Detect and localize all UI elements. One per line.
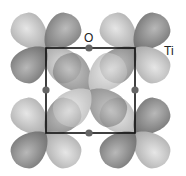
diagram-canvas [0, 0, 186, 176]
orbital-diagram: O Ti [0, 0, 186, 176]
oxygen-atom-top [85, 44, 92, 51]
oxygen-label: O [84, 31, 93, 45]
center-orbital [46, 46, 134, 134]
titanium-label: Ti [164, 44, 174, 58]
oxygen-atom-left [42, 86, 49, 93]
oxygen-atom-bottom [85, 129, 92, 136]
oxygen-atom-right [131, 86, 138, 93]
